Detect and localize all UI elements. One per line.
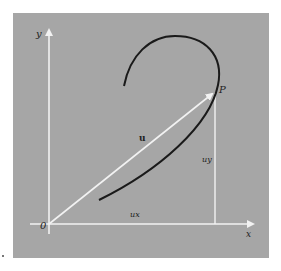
trajectory-curve [99, 36, 219, 200]
point-p-label: P [219, 85, 226, 95]
origin-label: 0 [40, 221, 46, 231]
y-axis-label: y [36, 29, 42, 39]
uy-label: uy [202, 155, 212, 165]
x-axis-label: x [246, 229, 251, 239]
ux-label: ux [130, 210, 140, 220]
vector-u-arrow [49, 94, 212, 224]
vector-u-label: u [139, 133, 146, 143]
